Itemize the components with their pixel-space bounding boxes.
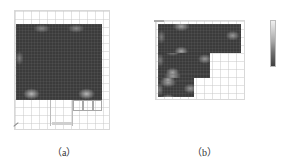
- panel-b-heatmap-mid: [158, 53, 210, 78]
- caption-a: （a）: [52, 144, 76, 159]
- panel-b-label: [154, 20, 164, 22]
- colorbar: [270, 20, 276, 67]
- panel-b-heatmap-bottom: [158, 78, 194, 97]
- caption-b: （b）: [192, 144, 217, 159]
- panel-a-cell-3: [93, 100, 102, 111]
- panel-b-heatmap-top: [158, 24, 241, 53]
- panel-a-legend-bar: [52, 122, 72, 125]
- panel-a-heatmap: [16, 24, 102, 100]
- panel-a-cell-1: [73, 100, 83, 111]
- panel-a-cell-2: [83, 100, 93, 111]
